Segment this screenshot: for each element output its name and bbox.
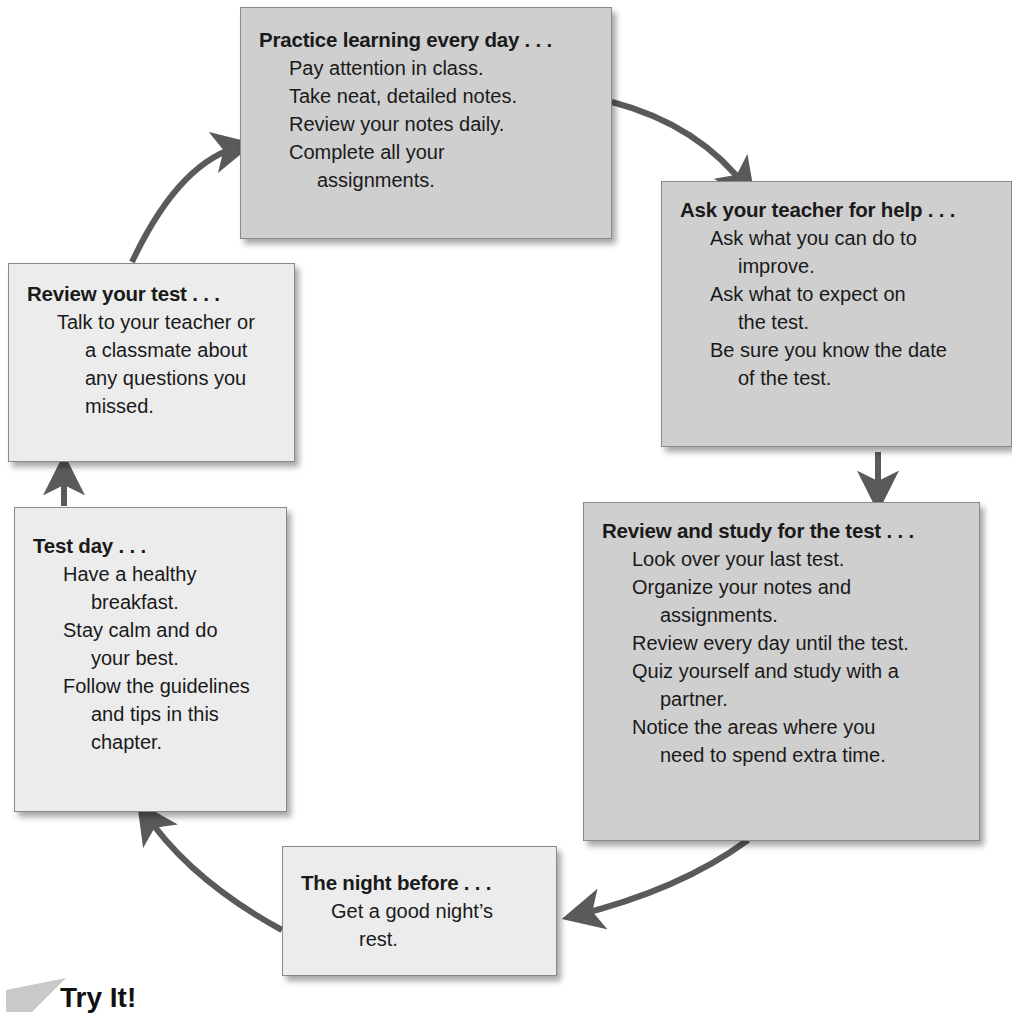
- step-item-line: Stay calm and do: [63, 616, 272, 644]
- step-item-line: Take neat, detailed notes.: [289, 82, 597, 110]
- step-testday-items: Have a healthy breakfast. Stay calm and …: [33, 560, 272, 756]
- step-night-box: The night before . . . Get a good night’…: [282, 846, 557, 976]
- arrow-study-to-night: [574, 840, 748, 916]
- arrow-night-to-testday: [144, 812, 282, 930]
- step-item-line: chapter.: [63, 728, 272, 756]
- arrow-practice-to-ask: [612, 102, 748, 190]
- step-item-line: breakfast.: [63, 588, 272, 616]
- step-item-line: Be sure you know the date: [710, 336, 997, 364]
- step-ask-items: Ask what you can do to improve. Ask what…: [680, 224, 997, 392]
- step-review-box: Review your test . . . Talk to your teac…: [8, 263, 295, 462]
- step-practice-items: Pay attention in class. Take neat, detai…: [259, 54, 597, 194]
- step-review-items: Talk to your teacher or a classmate abou…: [27, 308, 280, 420]
- step-item-line: any questions you: [57, 364, 280, 392]
- step-ask-box: Ask your teacher for help . . . Ask what…: [661, 181, 1012, 447]
- step-item-line: assignments.: [289, 166, 597, 194]
- step-testday-box: Test day . . . Have a healthy breakfast.…: [14, 507, 287, 812]
- step-practice-box: Practice learning every day . . . Pay at…: [240, 7, 612, 239]
- step-item-line: need to spend extra time.: [632, 741, 965, 769]
- step-item-line: Pay attention in class.: [289, 54, 597, 82]
- step-study-title: Review and study for the test . . .: [602, 517, 965, 545]
- step-item-line: of the test.: [710, 364, 997, 392]
- step-night-items: Get a good night’s rest.: [301, 897, 542, 953]
- step-item-line: assignments.: [632, 601, 965, 629]
- step-item-line: Look over your last test.: [632, 545, 965, 573]
- step-item-line: Follow the guidelines: [63, 672, 272, 700]
- step-item-line: Get a good night’s: [331, 897, 542, 925]
- step-study-items: Look over your last test. Organize your …: [602, 545, 965, 769]
- step-item-line: your best.: [63, 644, 272, 672]
- step-item-line: the test.: [710, 308, 997, 336]
- step-ask-title: Ask your teacher for help . . .: [680, 196, 997, 224]
- step-item-line: Quiz yourself and study with a: [632, 657, 965, 685]
- step-item-line: Review your notes daily.: [289, 110, 597, 138]
- step-practice-title: Practice learning every day . . .: [259, 26, 597, 54]
- step-item-line: Review every day until the test.: [632, 629, 965, 657]
- arrow-review-to-practice: [132, 146, 242, 262]
- step-item-line: partner.: [632, 685, 965, 713]
- step-study-box: Review and study for the test . . . Look…: [583, 502, 980, 841]
- step-item-line: Complete all your: [289, 138, 597, 166]
- step-item-line: Ask what you can do to: [710, 224, 997, 252]
- step-item-line: a classmate about: [57, 336, 280, 364]
- step-item-line: Ask what to expect on: [710, 280, 997, 308]
- step-item-line: rest.: [331, 925, 542, 953]
- try-it-wedge-icon: [2, 972, 66, 1012]
- step-review-title: Review your test . . .: [27, 280, 280, 308]
- step-testday-title: Test day . . .: [33, 532, 272, 560]
- step-item-line: Have a healthy: [63, 560, 272, 588]
- step-item-line: and tips in this: [63, 700, 272, 728]
- step-night-title: The night before . . .: [301, 869, 542, 897]
- try-it-heading: Try It!: [60, 982, 136, 1014]
- step-item-line: Notice the areas where you: [632, 713, 965, 741]
- step-item-line: improve.: [710, 252, 997, 280]
- step-item-line: missed.: [57, 392, 280, 420]
- step-item-line: Organize your notes and: [632, 573, 965, 601]
- step-item-line: Talk to your teacher or: [57, 308, 280, 336]
